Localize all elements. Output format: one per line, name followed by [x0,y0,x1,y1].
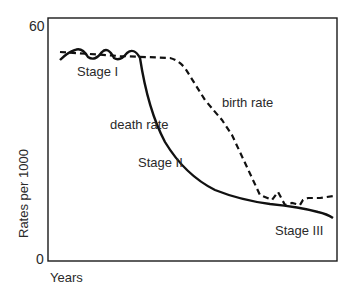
stage-2-label: Stage II [138,155,183,170]
birth-rate-label: birth rate [222,95,273,110]
death-rate-label: death rate [110,117,169,132]
x-axis-label: Years [50,270,83,285]
stage-3-label: Stage III [275,223,323,238]
y-axis-label: Rates per 1000 [16,149,31,238]
y-tick-60: 60 [29,18,45,34]
y-tick-0: 0 [36,251,44,267]
demographic-transition-chart: 60 0 Years Rates per 1000 Stage I death … [0,0,357,290]
stage-1-label: Stage I [77,64,118,79]
